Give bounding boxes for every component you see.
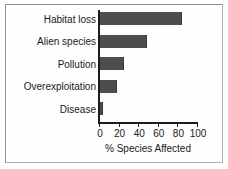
y-axis-spine bbox=[98, 10, 100, 124]
category-label-alien-species: Alien species bbox=[37, 36, 96, 47]
bar-pollution bbox=[100, 57, 124, 70]
category-label-habitat-loss: Habitat loss bbox=[44, 14, 96, 25]
category-label-overexploitation: Overexploitation bbox=[24, 81, 96, 92]
category-label-disease: Disease bbox=[60, 104, 96, 115]
bar-habitat-loss bbox=[100, 12, 182, 25]
bar-alien-species bbox=[100, 35, 147, 48]
bar-overexploitation bbox=[100, 80, 117, 93]
bar-disease bbox=[100, 102, 103, 115]
x-tick-60 bbox=[158, 124, 159, 127]
figure: Habitat loss Alien species Pollution Ove… bbox=[0, 0, 228, 169]
x-axis-spine bbox=[98, 122, 198, 124]
x-tick-100 bbox=[197, 124, 198, 127]
plot-area: Habitat loss Alien species Pollution Ove… bbox=[0, 0, 228, 169]
x-tick-label-100: 100 bbox=[186, 128, 210, 139]
x-tick-80 bbox=[177, 124, 178, 127]
x-tick-40 bbox=[138, 124, 139, 127]
x-tick-0 bbox=[99, 124, 100, 127]
x-tick-20 bbox=[119, 124, 120, 127]
x-axis-title: % Species Affected bbox=[68, 143, 198, 155]
category-label-pollution: Pollution bbox=[58, 59, 96, 70]
